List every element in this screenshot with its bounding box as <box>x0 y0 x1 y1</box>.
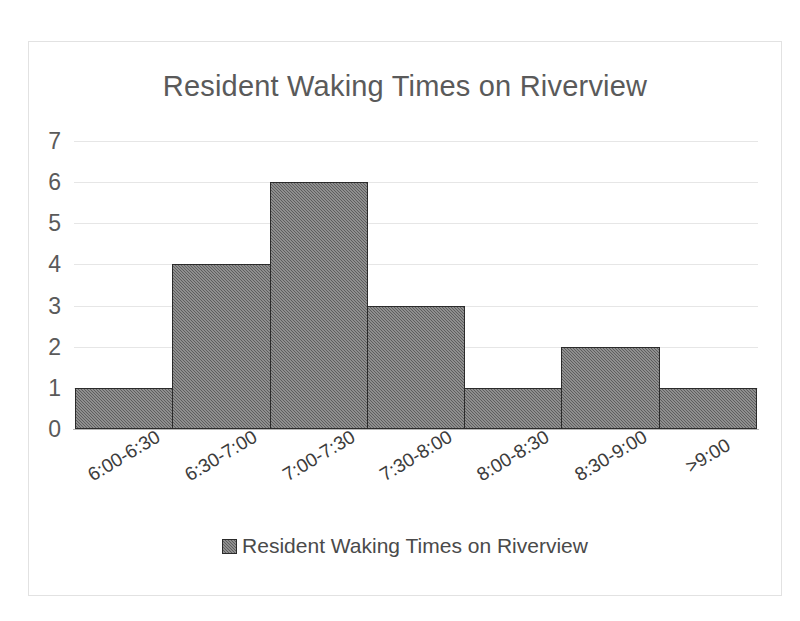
chart-frame: Resident Waking Times on Riverview 01234… <box>28 41 782 596</box>
x-axis-category-label: >9:00 <box>682 434 735 478</box>
y-axis-tick-label: 4 <box>48 253 61 276</box>
x-axis-category-label: 6:30-7:00 <box>181 426 261 486</box>
y-axis-tick-label: 6 <box>48 171 61 194</box>
bar <box>659 388 757 429</box>
x-axis-category: 6:00-6:30 <box>75 429 172 524</box>
x-axis-category-label: 6:00-6:30 <box>84 426 164 486</box>
legend-entry-label: Resident Waking Times on Riverview <box>242 534 588 558</box>
y-axis-tick-label: 5 <box>48 212 61 235</box>
y-axis-tick-label: 3 <box>48 294 61 317</box>
chart-title: Resident Waking Times on Riverview <box>29 70 781 103</box>
filled-square-icon <box>222 539 237 554</box>
bar <box>561 347 659 429</box>
x-axis-category: 8:30-9:00 <box>562 429 659 524</box>
bar <box>172 264 270 429</box>
bar <box>367 306 465 429</box>
bar <box>270 182 368 429</box>
bar-series <box>75 141 757 429</box>
chart-legend: Resident Waking Times on Riverview <box>29 534 781 558</box>
x-axis-category-label: 7:00-7:30 <box>278 426 358 486</box>
y-axis-tick-label: 1 <box>48 376 61 399</box>
y-axis-tick-label: 2 <box>48 335 61 358</box>
plot-area: 01234567 <box>75 141 757 429</box>
x-axis-category: 6:30-7:00 <box>172 429 269 524</box>
x-axis-category: 7:00-7:30 <box>270 429 367 524</box>
x-axis-category-labels: 6:00-6:306:30-7:007:00-7:307:30-8:008:00… <box>75 429 757 524</box>
x-axis-category-label: 8:00-8:30 <box>473 426 553 486</box>
x-axis-category-label: 8:30-9:00 <box>571 426 651 486</box>
x-axis-category: 7:30-8:00 <box>367 429 464 524</box>
x-axis-category: 8:00-8:30 <box>465 429 562 524</box>
bar <box>75 388 173 429</box>
x-axis-category: >9:00 <box>660 429 757 524</box>
bar <box>464 388 562 429</box>
y-axis-tick-label: 0 <box>48 418 61 441</box>
y-axis-tick-label: 7 <box>48 130 61 153</box>
x-axis-category-label: 7:30-8:00 <box>376 426 456 486</box>
